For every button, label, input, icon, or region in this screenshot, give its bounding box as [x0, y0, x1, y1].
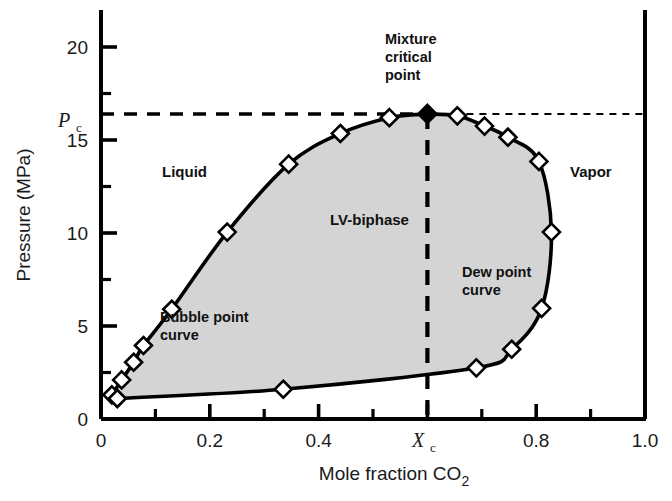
- x-axis-ticks: [101, 404, 645, 419]
- bubble-annotation-line2: curve: [160, 327, 199, 343]
- y-axis-title: Pressure (MPa): [13, 148, 34, 281]
- y-tick-label: 5: [77, 316, 88, 337]
- region-label-vapor: Vapor: [570, 163, 612, 180]
- phase-diagram-figure: 05101520 00.20.40.81.0 P c X c Mole frac…: [0, 0, 672, 501]
- mixture-critical-point-callout: Mixture critical point: [385, 31, 437, 83]
- bubble-annotation-line1: Bubble point: [160, 309, 249, 325]
- xc-axis-label: X c: [411, 429, 436, 455]
- x-tick-label: 0.8: [523, 430, 549, 451]
- callout-line3: point: [385, 67, 421, 83]
- x-tick-label: 0.4: [305, 430, 332, 451]
- lv-biphase-shaded-region: [112, 114, 552, 399]
- dew-annotation-line1: Dew point: [462, 264, 531, 280]
- x-axis-title: Mole fraction CO2: [319, 463, 470, 489]
- y-axis-ticks: [101, 47, 117, 419]
- phase-diagram-chart: 05101520 00.20.40.81.0 P c X c Mole frac…: [0, 0, 672, 501]
- x-axis-title-subscript: 2: [461, 473, 469, 489]
- x-axis-title-text: Mole fraction CO: [319, 463, 462, 484]
- pc-subscript: c: [76, 120, 82, 135]
- y-axis-tick-labels: 05101520: [67, 37, 88, 430]
- region-label-lv-biphase: LV-biphase: [330, 211, 409, 228]
- xc-subscript: c: [430, 440, 436, 455]
- pc-symbol: P: [57, 109, 70, 131]
- x-tick-label: 0.2: [197, 430, 223, 451]
- y-tick-label: 20: [67, 37, 88, 58]
- xc-symbol: X: [411, 429, 425, 451]
- x-tick-label: 0: [96, 430, 107, 451]
- callout-line2: critical: [385, 49, 432, 65]
- callout-line1: Mixture: [385, 31, 437, 47]
- y-tick-label: 10: [67, 223, 88, 244]
- x-axis-tick-labels: 00.20.40.81.0: [96, 430, 659, 451]
- y-tick-label: 0: [77, 409, 88, 430]
- region-label-liquid: Liquid: [162, 163, 207, 180]
- x-tick-label: 1.0: [632, 430, 658, 451]
- dew-annotation-line2: curve: [462, 282, 501, 298]
